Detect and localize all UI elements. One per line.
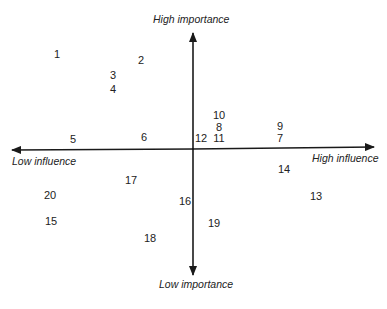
stakeholder-point-17: 17 — [125, 175, 137, 186]
low-influence-label: Low influence — [12, 156, 76, 167]
stakeholder-point-3: 3 — [110, 70, 116, 81]
stakeholder-point-18: 18 — [144, 233, 156, 244]
stakeholder-point-6: 6 — [141, 132, 147, 143]
stakeholder-point-13: 13 — [310, 191, 322, 202]
stakeholder-point-15: 15 — [45, 216, 57, 227]
stakeholder-point-2: 2 — [138, 55, 144, 66]
stakeholder-point-16: 16 — [179, 196, 191, 207]
stakeholder-point-7: 7 — [277, 133, 283, 144]
stakeholder-point-10: 10 — [213, 110, 225, 121]
stakeholder-point-5: 5 — [70, 134, 76, 145]
high-importance-label: High importance — [153, 14, 229, 25]
stakeholder-point-9: 9 — [277, 121, 283, 132]
horizontal-axis-left-arrow — [12, 149, 194, 150]
low-importance-label: Low importance — [159, 279, 233, 290]
stakeholder-matrix-diagram: High importance Low importance Low influ… — [0, 0, 387, 309]
stakeholder-point-12: 12 — [195, 133, 207, 144]
stakeholder-point-4: 4 — [110, 84, 116, 95]
high-influence-label: High influence — [312, 153, 379, 164]
stakeholder-point-1: 1 — [54, 49, 60, 60]
stakeholder-point-19: 19 — [208, 218, 220, 229]
horizontal-axis-right-arrow — [192, 147, 374, 149]
stakeholder-point-14: 14 — [278, 164, 290, 175]
stakeholder-point-11: 11 — [213, 133, 224, 144]
stakeholder-point-20: 20 — [44, 190, 56, 201]
